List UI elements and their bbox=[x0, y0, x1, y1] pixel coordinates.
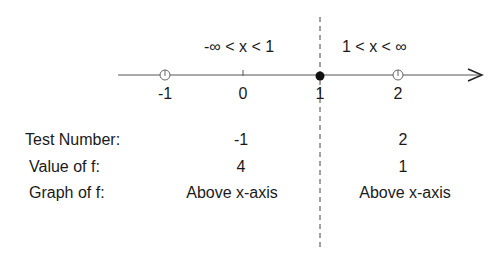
cell-test-number-right: 2 bbox=[399, 132, 408, 148]
tick-label: 2 bbox=[394, 86, 403, 102]
critical-point-dot-icon bbox=[316, 72, 325, 81]
row-label-graph: Graph of f: bbox=[29, 185, 105, 201]
cell-graph-left: Above x-axis bbox=[186, 185, 278, 201]
tick-label: 0 bbox=[239, 86, 248, 102]
row-label-test-number: Test Number: bbox=[25, 132, 120, 148]
tick-label: 1 bbox=[316, 86, 325, 102]
cell-test-number-left: -1 bbox=[234, 132, 248, 148]
interval-label-left: -∞ < x < 1 bbox=[204, 39, 274, 55]
row-label-value: Value of f: bbox=[29, 159, 100, 175]
cell-graph-right: Above x-axis bbox=[359, 185, 451, 201]
cell-value-left: 4 bbox=[237, 159, 246, 175]
cell-value-right: 1 bbox=[399, 159, 408, 175]
interval-label-right: 1 < x < ∞ bbox=[342, 39, 407, 55]
tick-label: -1 bbox=[158, 86, 172, 102]
